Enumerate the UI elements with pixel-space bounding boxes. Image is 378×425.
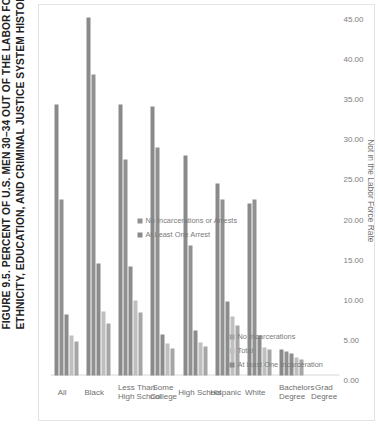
value-axis-tick-label: 5.00	[343, 335, 359, 344]
category-label: White	[241, 387, 267, 396]
value-axis-tick-label: 45.00	[343, 14, 363, 23]
category-label: SomeCollege	[150, 383, 176, 402]
category-label-line: Black	[84, 387, 104, 396]
bar-at-least-one-arrest	[118, 104, 122, 375]
bar-no-incarcerations	[170, 348, 174, 375]
bar-total	[165, 343, 169, 375]
category-label-line: Hispanic	[209, 387, 240, 396]
category-label: GradDegree	[310, 383, 336, 402]
bar-no-incarcerations	[106, 323, 110, 375]
value-axis-tick-label: 30.00	[343, 134, 363, 143]
bar-no-incarcerations-or-arrests	[91, 74, 95, 375]
bar-total	[133, 300, 137, 375]
legend-label: No Incarcerations or Arrests	[145, 215, 237, 224]
figure-title-line-2: Ethnicity, Education, and Criminal Justi…	[14, 0, 28, 330]
category-label: All	[49, 387, 75, 396]
figure-title: Figure 9.5. Percent of U.S. Men 30–34 ou…	[0, 0, 27, 330]
figure-page: Figure 9.5. Percent of U.S. Men 30–34 ou…	[0, 0, 378, 425]
bar-at-least-one-arrest	[215, 183, 219, 375]
legend-label: Total	[237, 345, 253, 354]
legend-swatch-icon	[137, 218, 142, 223]
bar-at-least-one-incarceration	[193, 330, 197, 375]
category-label-line: Grad	[314, 383, 332, 392]
bar-no-incarcerations-or-arrests	[220, 199, 224, 375]
value-axis-title: Not in the Labor Force Rate	[365, 139, 375, 242]
bar-at-least-one-incarceration	[257, 335, 261, 375]
category-label-line: College	[150, 392, 177, 401]
bar-at-least-one-incarceration	[64, 314, 68, 375]
bar-total	[198, 342, 202, 375]
value-axis-tick-label: 0.00	[343, 375, 359, 384]
value-axis-tick-label: 25.00	[343, 174, 363, 183]
legend-swatch-icon	[229, 362, 234, 367]
bar-at-least-one-incarceration	[225, 301, 229, 375]
figure-title-line-1: Figure 9.5. Percent of U.S. Men 30–34 ou…	[0, 0, 14, 330]
bar-no-incarcerations-or-arrests	[155, 147, 159, 375]
bar-at-least-one-arrest	[86, 17, 90, 375]
bar-at-least-one-arrest	[54, 104, 58, 375]
plot-area: 0.005.0010.0015.0020.0025.0030.0035.0040…	[38, 4, 375, 421]
category-label: BachelorsDegree	[278, 383, 304, 402]
bar-total	[69, 335, 73, 375]
legend-label: No Incarcerations	[237, 331, 295, 340]
bar-no-incarcerations-or-arrests	[123, 159, 127, 375]
value-axis-tick-label: 35.00	[343, 94, 363, 103]
value-axis-tick-label: 40.00	[343, 54, 363, 63]
legend-label: At least One Incarceration	[237, 359, 322, 368]
bar-at-least-one-incarceration	[128, 266, 132, 375]
bar-no-incarcerations-or-arrests	[59, 199, 63, 375]
chart-panel: 0.005.0010.0015.0020.0025.0030.0035.0040…	[38, 4, 375, 421]
category-label-line: Some	[152, 383, 173, 392]
category-label: Hispanic	[209, 387, 235, 396]
bar-no-incarcerations	[203, 346, 207, 375]
bar-at-least-one-arrest	[183, 155, 187, 375]
value-axis-tick-label: 20.00	[343, 215, 363, 224]
category-label-line: All	[57, 387, 66, 396]
bar-total	[101, 311, 105, 375]
category-label-line: White	[244, 387, 264, 396]
category-label-line: Bachelors	[278, 383, 314, 392]
value-axis-tick-label: 10.00	[343, 295, 363, 304]
legend-swatch-icon	[137, 232, 142, 237]
chart-rotated-canvas: 0.005.0010.0015.0020.0025.0030.0035.0040…	[38, 4, 375, 421]
category-label: Black	[81, 387, 107, 396]
bar-at-least-one-arrest	[150, 106, 154, 375]
bar-no-incarcerations	[138, 312, 142, 375]
bar-at-least-one-incarceration	[160, 334, 164, 375]
bar-at-least-one-incarceration	[96, 263, 100, 375]
legend-swatch-icon	[229, 348, 234, 353]
bar-no-incarcerations	[74, 341, 78, 375]
category-label: High School	[177, 387, 203, 396]
category-label-line: Degree	[310, 392, 336, 401]
category-label: Less ThanHigh School	[118, 383, 144, 402]
legend-label: At Least One Arrest	[145, 229, 210, 238]
category-label-line: Degree	[278, 392, 304, 401]
value-axis-tick-label: 15.00	[343, 255, 363, 264]
legend-swatch-icon	[229, 334, 234, 339]
bar-no-incarcerations-or-arrests	[188, 245, 192, 375]
